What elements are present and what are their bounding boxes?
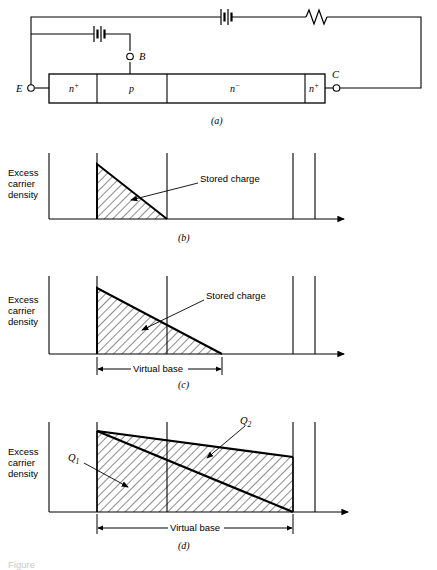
figure-svg: E B C n+ p n− n+ (a) — [0, 0, 437, 570]
panel-d-virtual-base-label: Virtual base — [170, 522, 220, 533]
terminal-E-node[interactable] — [28, 85, 35, 92]
circuit-wire-outer — [31, 17, 421, 88]
terminal-B-node[interactable] — [127, 53, 134, 60]
region-label-n-plus-collector: n+ — [309, 81, 319, 94]
terminal-label-E: E — [15, 83, 23, 94]
panel-b-chart: Stored charge Excess carrier density (b) — [8, 153, 344, 244]
panel-label-c: (c) — [178, 379, 190, 391]
region-label-n-minus: n− — [230, 81, 240, 94]
svg-text:carrier: carrier — [8, 305, 35, 316]
svg-text:density: density — [8, 468, 38, 479]
panel-label-d: (d) — [178, 540, 190, 552]
panel-a-circuit: E B C n+ p n− n+ (a) — [15, 9, 421, 127]
panel-b-annotation-leader — [131, 183, 198, 200]
panel-d-axis-label: Excess carrier density — [8, 446, 39, 479]
svg-text:density: density — [8, 316, 38, 327]
svg-text:Excess: Excess — [8, 446, 39, 457]
panel-c-chart: Stored charge Excess carrier density Vir… — [8, 276, 344, 391]
panel-c-virtual-base-label: Virtual base — [133, 363, 183, 374]
panel-c-annotation-leader — [142, 300, 204, 330]
svg-text:Excess: Excess — [8, 167, 39, 178]
panel-b-annotation-label: Stored charge — [200, 173, 260, 184]
panel-b-axis-label: Excess carrier density — [8, 167, 39, 200]
region-label-p: p — [128, 83, 134, 94]
panel-c-annotation-label: Stored charge — [206, 290, 266, 301]
panel-d-q2-label: Q2 — [240, 415, 252, 429]
figure-caption: Figure — [8, 559, 35, 570]
panel-c-axis-label: Excess carrier density — [8, 294, 39, 327]
panel-label-a: (a) — [211, 115, 223, 127]
device-region-labels: n+ p n− n+ — [69, 81, 319, 94]
panel-d-q1-label: Q1 — [68, 452, 79, 466]
device-bar — [49, 74, 325, 103]
terminal-label-C: C — [332, 69, 340, 80]
panel-label-b: (b) — [178, 232, 190, 244]
resistor-icon — [306, 10, 327, 24]
circuit-wire-base — [31, 34, 130, 74]
svg-text:carrier: carrier — [8, 178, 35, 189]
svg-text:carrier: carrier — [8, 457, 35, 468]
battery-base-icon — [94, 26, 105, 42]
terminal-C-node[interactable] — [333, 85, 340, 92]
battery-top-icon — [221, 9, 232, 25]
figure-container: E B C n+ p n− n+ (a) — [0, 0, 437, 570]
panel-d-chart: Q1 Q2 Excess carrier density Virtual bas… — [8, 415, 348, 552]
region-label-n-plus-emitter: n+ — [69, 81, 79, 94]
svg-text:density: density — [8, 189, 38, 200]
svg-text:Excess: Excess — [8, 294, 39, 305]
terminal-label-B: B — [139, 51, 146, 62]
